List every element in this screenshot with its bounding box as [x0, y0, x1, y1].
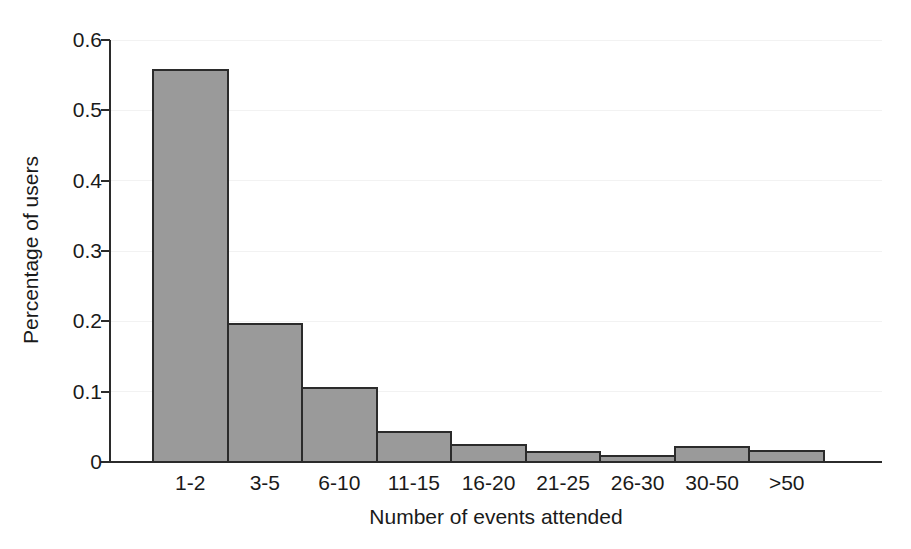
- bar-16-20: [451, 445, 526, 462]
- histogram-figure: 00.10.20.30.40.50.6 1-23-56-1011-1516-20…: [0, 0, 911, 549]
- y-tick-marks-group: [101, 40, 110, 462]
- chart-plot-area: [0, 0, 911, 549]
- y-tick-label: 0.2: [46, 309, 102, 333]
- bar-1-2: [153, 70, 228, 462]
- x-tick-label: >50: [739, 470, 834, 496]
- y-tick-label: 0.1: [46, 380, 102, 404]
- x-axis-title: Number of events attended: [110, 505, 882, 529]
- y-tick-label: 0: [46, 450, 102, 474]
- bar-11-15: [377, 432, 452, 462]
- bar-30-50: [675, 447, 750, 462]
- bar-3-5: [228, 324, 303, 462]
- y-tick-label: 0.3: [46, 239, 102, 263]
- bar->50: [749, 451, 824, 462]
- y-tick-label: 0.4: [46, 169, 102, 193]
- y-tick-label: 0.5: [46, 98, 102, 122]
- bars-group: [153, 70, 824, 462]
- bar-6-10: [302, 388, 377, 462]
- bar-21-25: [526, 452, 601, 462]
- y-axis-title: Percentage of users: [14, 40, 48, 460]
- y-tick-label: 0.6: [46, 28, 102, 52]
